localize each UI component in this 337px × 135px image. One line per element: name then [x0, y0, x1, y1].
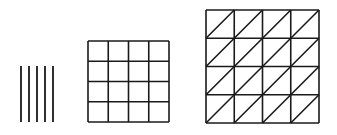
cell-diagonal-line [206, 67, 234, 95]
cell-diagonal-line [234, 10, 262, 38]
cell-diagonal-line [291, 67, 319, 95]
cell-diagonal-line [263, 95, 291, 123]
square-grid-figure [88, 41, 169, 122]
cell-diagonal-line [206, 38, 234, 66]
cell-diagonal-line [263, 38, 291, 66]
cell-diagonal-line [291, 10, 319, 38]
cell-diagonal-line [291, 95, 319, 123]
cell-diagonal-line [206, 95, 234, 123]
cell-diagonal-line [291, 38, 319, 66]
cell-diagonal-line [263, 67, 291, 95]
diagram-canvas [0, 0, 337, 135]
cell-diagonal-line [234, 67, 262, 95]
parallel-lines-figure [21, 66, 53, 122]
cell-diagonal-line [206, 10, 234, 38]
triangulated-grid-figure [206, 10, 319, 123]
cell-diagonal-line [234, 95, 262, 123]
cell-diagonal-line [234, 38, 262, 66]
cell-diagonal-line [263, 10, 291, 38]
